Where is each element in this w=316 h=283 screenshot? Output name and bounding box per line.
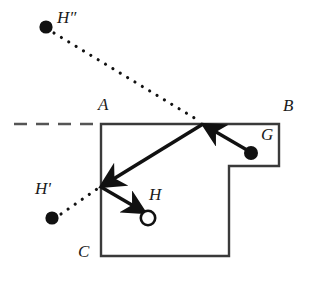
dotted-line-h-double-prime — [54, 33, 201, 122]
ray-left-wall-to-h — [101, 187, 144, 212]
point-label-h: H — [149, 186, 161, 203]
dotted-line-h-prime — [61, 189, 97, 214]
point-label-h-double-prime: H″ — [57, 9, 76, 26]
point-label-h-prime: H' — [35, 180, 51, 197]
vertex-label-b: B — [283, 97, 293, 114]
point-marker-h-prime — [45, 211, 58, 224]
point-marker-h-double-prime — [39, 20, 52, 33]
ray-g-to-top-wall — [204, 125, 247, 150]
point-label-g: G — [261, 126, 273, 143]
ray-top-wall-to-left-wall — [102, 124, 203, 186]
point-marker-g — [244, 146, 258, 160]
point-marker-h — [141, 211, 155, 225]
vertex-label-a: A — [98, 96, 108, 113]
room-outline-polygon — [101, 124, 279, 256]
reflection-diagram-figure: A B C G H H' H″ — [0, 0, 316, 283]
vertex-label-c: C — [78, 243, 89, 260]
